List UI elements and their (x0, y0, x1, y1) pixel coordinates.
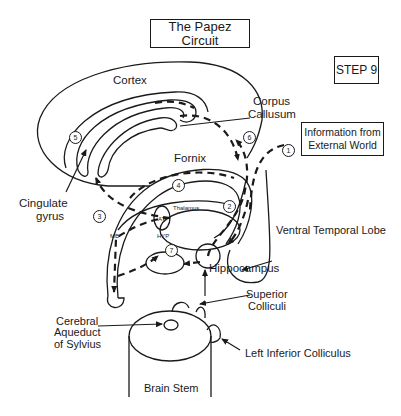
label-superior-colliculi-2: Colliculi (248, 300, 286, 313)
label-hippocampus: Hippocampus (209, 262, 279, 275)
step-marker-5: 5 (69, 131, 82, 144)
label-at: AT (158, 213, 165, 226)
label-left-inferior-colliculus: Left Inferior Colliculus (245, 347, 351, 360)
label-cerebral-aqueduct-3: of Sylvius (54, 338, 101, 351)
step-marker-7: 7 (165, 244, 178, 257)
step-text: STEP 9 (336, 63, 377, 77)
label-cortex: Cortex (113, 74, 147, 87)
title-text: The Papez Circuit (151, 20, 249, 48)
title-box: The Papez Circuit (150, 19, 250, 48)
label-thalamus: Thalamus (173, 202, 199, 215)
step-marker-3: 3 (93, 210, 106, 223)
label-cingulate-2: gyrus (36, 210, 64, 223)
step-marker-6: 6 (243, 131, 256, 144)
cerebral-aqueduct-shape (164, 320, 178, 330)
label-cingulate-1: Cingulate (19, 197, 68, 210)
cortex-outline (37, 62, 262, 186)
inferior-colliculus (207, 325, 220, 342)
hyp-shape (146, 252, 184, 274)
path-step5 (96, 178, 170, 218)
info-line-1: Information from (304, 126, 380, 139)
step-marker-4: 4 (172, 179, 185, 192)
label-mb: MB (110, 230, 119, 243)
info-box: Information from External World (301, 122, 384, 156)
brain-stem-top (129, 311, 211, 361)
path-mb-at (118, 256, 158, 276)
papez-circuit-diagram: The Papez Circuit STEP 9 Information fro… (0, 0, 401, 416)
label-corpus-callosum-2: Callusum (248, 108, 296, 121)
path-hyp (184, 262, 200, 264)
info-line-2: External World (308, 139, 377, 152)
label-brain-stem: Brain Stem (144, 382, 198, 395)
superior-colliculus-2 (196, 307, 205, 318)
step-box: STEP 9 (334, 56, 379, 84)
step-marker-2: 2 (223, 200, 236, 213)
step-marker-1: 1 (282, 144, 295, 157)
label-hyp: HYP (157, 230, 169, 243)
label-fornix: Fornix (174, 152, 206, 165)
label-corpus-callosum-1: Corpus (253, 95, 290, 108)
label-ventral-temporal-lobe: Ventral Temporal Lobe (276, 224, 386, 237)
mb-shape (107, 296, 124, 308)
